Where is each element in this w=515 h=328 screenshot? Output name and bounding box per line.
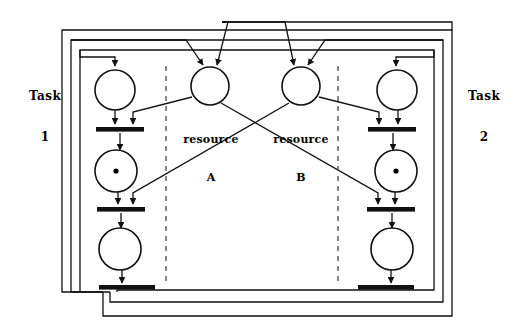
arc-to-resource-a-left: [71, 40, 203, 65]
task1-label: Task 1: [16, 62, 74, 172]
arc-to-resource-a-right: [217, 22, 228, 65]
task2-transition-acquire-A: [367, 207, 415, 212]
task1-transition-acquire-B: [97, 207, 145, 212]
task2-transition-acquire-B: [368, 127, 416, 132]
task1-transition-release: [99, 285, 155, 290]
task1-label-line1: Task: [16, 90, 74, 104]
task2-transition-release: [358, 285, 414, 290]
token-task1-place-holding-A: [113, 168, 118, 173]
task2-place-idle: [377, 70, 417, 110]
arc-to-task2-idle: [396, 50, 434, 66]
resource-a-place: [191, 67, 229, 105]
arc-to-resource-b-right: [308, 40, 443, 65]
resource-a-label-line1: resource: [166, 134, 256, 147]
arc-to-task1-idle: [80, 50, 115, 66]
task1-place-idle: [95, 70, 135, 110]
resource-a-label: resource A: [166, 109, 256, 210]
arc-to-resource-b-left: [222, 22, 294, 65]
arc-top-spine: [222, 22, 452, 30]
task1-transition-acquire-A: [96, 127, 144, 132]
task1-label-line2: 1: [16, 131, 74, 145]
task2-place-holding-BA: [371, 228, 413, 270]
resource-b-label: resource B: [256, 109, 346, 210]
task2-label-line2: 2: [455, 131, 513, 145]
task2-label-line1: Task: [455, 90, 513, 104]
resource-a-label-line2: A: [166, 172, 256, 185]
resource-b-label-line1: resource: [256, 134, 346, 147]
petri-net-diagram: Task 1 Task 2 resource A resource B: [0, 0, 515, 328]
resource-b-label-line2: B: [256, 172, 346, 185]
resource-b-place: [282, 67, 320, 105]
task1-place-holding-AB: [99, 228, 141, 270]
task2-label: Task 2: [455, 62, 513, 172]
token-task2-place-holding-B: [393, 168, 398, 173]
